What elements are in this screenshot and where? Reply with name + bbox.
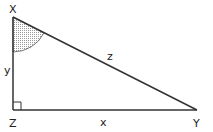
vertex-label-y: Y xyxy=(192,117,200,130)
right-angle-marker xyxy=(13,102,21,110)
side-label-y: y xyxy=(4,64,11,77)
side-label-x: x xyxy=(100,116,107,129)
angle-x-marker xyxy=(13,17,44,52)
side-xy xyxy=(13,17,197,110)
side-label-z: z xyxy=(107,50,113,63)
vertex-label-x: X xyxy=(9,3,17,16)
triangle-diagram: X Y Z y x z xyxy=(0,0,213,132)
vertex-label-z: Z xyxy=(9,117,17,130)
